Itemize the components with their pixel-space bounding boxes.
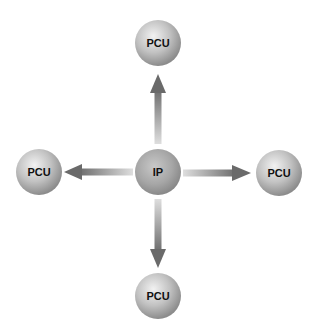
node-label: IP xyxy=(153,166,163,178)
node-label: PCU xyxy=(146,290,169,302)
star-diagram: PCU PCU PCU PCU IP xyxy=(0,0,314,334)
node-top-pcu: PCU xyxy=(135,20,181,66)
node-bottom-pcu: PCU xyxy=(135,273,181,319)
arrow-to-left xyxy=(64,164,133,180)
node-label: PCU xyxy=(146,37,169,49)
arrow-to-bottom xyxy=(150,199,166,268)
node-center-ip: IP xyxy=(135,149,181,195)
node-right-pcu: PCU xyxy=(256,150,302,196)
node-label: PCU xyxy=(267,167,290,179)
node-label: PCU xyxy=(27,166,50,178)
arrow-to-right xyxy=(183,165,251,181)
node-left-pcu: PCU xyxy=(16,149,62,195)
arrow-to-top xyxy=(150,74,166,144)
